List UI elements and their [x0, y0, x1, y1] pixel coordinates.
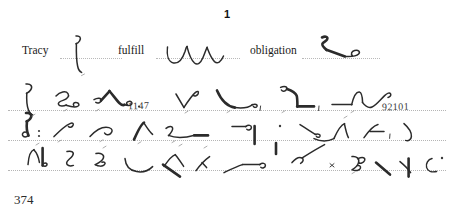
- shorthand-line-3: [8, 148, 446, 178]
- shorthand-outline-fulfill: [154, 30, 240, 78]
- word-prompt-fulfill: fulfill: [118, 38, 238, 78]
- word-prompt-label: obligation: [250, 44, 297, 56]
- word-prompt-tracy: Tracy: [22, 38, 132, 78]
- exercise-number-heading: 1: [0, 8, 454, 20]
- shorthand-outline-obligation: [308, 30, 378, 76]
- shorthand-outline-tracy: [64, 30, 104, 82]
- page-number: 374: [14, 192, 34, 208]
- word-prompt-label: Tracy: [22, 44, 48, 56]
- word-prompt-label: fulfill: [118, 44, 144, 56]
- shorthand-strokes-line-3: [8, 140, 446, 184]
- worksheet-page: 1 Tracy fulfill: [0, 0, 454, 214]
- word-prompt-row: Tracy fulfill obligati: [0, 38, 454, 78]
- word-prompt-obligation: obligation: [250, 38, 410, 78]
